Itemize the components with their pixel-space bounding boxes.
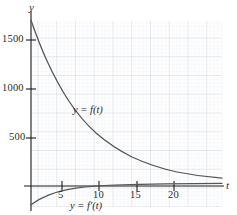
- y-tick-label-1000: 1000: [2, 83, 24, 94]
- x-tick-label-15: 15: [130, 190, 141, 201]
- curve-label-f-prime: y = f′(t): [70, 201, 102, 212]
- x-tick-label-10: 10: [93, 190, 104, 201]
- x-tick-label-20: 20: [168, 190, 179, 201]
- y-tick-label-500: 500: [9, 132, 25, 143]
- graph-paper-grid: [31, 21, 222, 207]
- x-axis-label: t: [226, 180, 229, 191]
- y-axis-label: y: [29, 2, 34, 13]
- curve-label-f: y = f(t): [73, 105, 103, 116]
- plot-canvas: [0, 0, 237, 215]
- y-tick-label-1500: 1500: [2, 34, 24, 45]
- x-tick-label-5: 5: [58, 190, 63, 201]
- figure-graph-f-and-f-prime: y t 1500 1000 500 5 10 15 20 y = f(t) y …: [0, 0, 237, 215]
